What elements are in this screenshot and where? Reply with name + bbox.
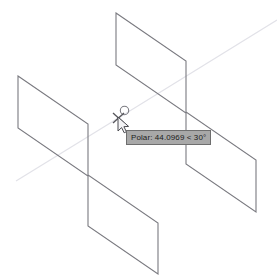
tracking-lines-group <box>16 20 277 181</box>
polar-tracking-tooltip: Polar: 44.0969 < 30° <box>126 130 211 145</box>
polar-tracking-ray-lower-left <box>16 117 120 181</box>
polar-tracking-ray-upper-right <box>120 20 277 117</box>
endpoint-snap-circle-icon <box>120 106 128 114</box>
cad-drawing-canvas[interactable]: Polar: 44.0969 < 30° <box>0 0 277 275</box>
lower-left-wall-face[interactable] <box>18 76 158 274</box>
upper-right-wall-face[interactable] <box>116 13 256 212</box>
